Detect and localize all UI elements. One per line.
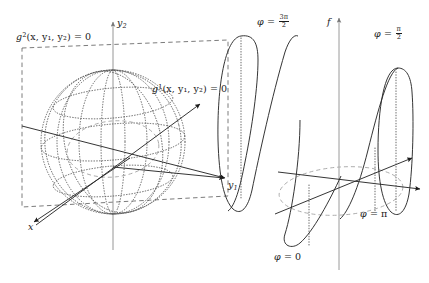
y1-axis (113, 167, 224, 178)
label-phi-pi-2: φ = π2 (374, 26, 403, 41)
tangent-line (22, 104, 225, 225)
label-phi-pi-2-fraction: π2 (396, 26, 402, 41)
loop-right (340, 68, 413, 219)
axis-label-y1-sub: 1 (233, 184, 237, 192)
label-phi-0: φ = 0 (274, 252, 301, 262)
label-phi-0-phi: φ (274, 251, 281, 262)
figure-root: g2(x, y₁, y₂) = 0 g1(x, y₁, y₂) = 0 y2 y… (0, 0, 429, 283)
label-g2: g2(x, y₁, y₂) = 0 (16, 32, 91, 42)
left-panel (22, 22, 228, 250)
right-panel (218, 18, 420, 270)
label-g2-args: (x, y₁, y₂) (26, 31, 70, 42)
label-phi-3pi-2-phi: φ (257, 16, 264, 27)
label-phi-pi-value: π (381, 208, 387, 219)
axis-label-f-text: f (327, 16, 331, 27)
axis-label-y2: y2 (117, 18, 127, 29)
axis-label-y1: y1 (228, 180, 238, 191)
label-phi-0-equals: = (284, 251, 292, 262)
axis-label-x-base: x (28, 221, 33, 232)
label-phi-pi-phi: φ (360, 208, 367, 219)
label-g1: g1(x, y₁, y₂) = 0 (152, 84, 227, 94)
label-phi-3pi-2-equals: = (267, 16, 275, 27)
figure-svg (0, 0, 429, 283)
label-phi-pi-2-phi: φ (374, 28, 381, 39)
label-phi-pi-equals: = (370, 208, 378, 219)
label-phi-3pi-2-fraction: 3π2 (279, 14, 290, 29)
loop-bottom (284, 120, 341, 246)
label-g2-equals: = 0 (74, 31, 91, 42)
label-phi-3pi-2-den: 2 (279, 22, 290, 29)
axis-label-y2-sub: 2 (122, 22, 126, 30)
label-phi-pi: φ = π (360, 209, 387, 219)
label-phi-pi-2-den: 2 (396, 34, 402, 41)
label-phi-3pi-2: φ = 3π2 (257, 14, 290, 29)
label-g1-equals: = 0 (210, 83, 227, 94)
label-phi-pi-2-equals: = (384, 28, 392, 39)
axis-label-f: f (327, 17, 331, 27)
label-phi-0-value: 0 (295, 251, 301, 262)
label-g1-args: (x, y₁, y₂) (162, 83, 206, 94)
axis-label-x: x (28, 222, 33, 232)
